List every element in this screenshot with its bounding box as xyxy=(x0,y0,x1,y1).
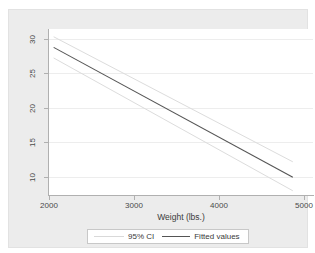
xtick-label-2000: 2000 xyxy=(29,201,69,210)
ytick-label-15: 15 xyxy=(21,136,43,148)
ci-upper-line xyxy=(54,37,293,162)
xtick-mark-2000 xyxy=(49,196,50,200)
stata-regression-chart-screenshot: 30 25 20 15 10 xyxy=(0,0,315,253)
x-axis-line xyxy=(48,195,314,196)
xtick-label-4000: 4000 xyxy=(199,201,239,210)
legend-swatch-fitted-icon xyxy=(162,236,190,237)
fitted-values-line xyxy=(54,47,293,177)
ytick-label-20: 20 xyxy=(21,102,43,114)
xtick-label-3000: 3000 xyxy=(114,201,154,210)
xtick-mark-3000 xyxy=(134,196,135,200)
xtick-label-5000: 5000 xyxy=(284,201,315,210)
y-axis-line xyxy=(48,29,49,196)
ytick-label-25: 25 xyxy=(21,67,43,79)
ytick-label-30: 30 xyxy=(21,33,43,45)
chart-legend[interactable]: 95% CI Fitted values xyxy=(87,229,249,244)
legend-swatch-ci-icon xyxy=(94,236,124,237)
legend-entry-fitted[interactable]: Fitted values xyxy=(156,230,241,243)
xtick-mark-4000 xyxy=(219,196,220,200)
legend-label-ci: 95% CI xyxy=(128,232,156,241)
legend-label-fitted: Fitted values xyxy=(194,232,241,241)
graph-region: 30 25 20 15 10 xyxy=(8,9,308,248)
legend-entry-ci[interactable]: 95% CI xyxy=(88,230,156,243)
series-lines xyxy=(49,29,313,195)
x-axis-title: Weight (lbs.) xyxy=(49,212,313,222)
ytick-label-10: 10 xyxy=(21,171,43,183)
ci-lower-line xyxy=(54,58,293,191)
xtick-mark-5000 xyxy=(304,196,305,200)
plot-area xyxy=(49,29,313,195)
